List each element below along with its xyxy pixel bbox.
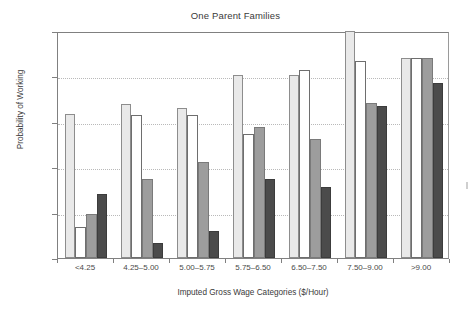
x-axis-label: Imputed Gross Wage Categories ($/Hour)	[57, 288, 449, 297]
bar	[131, 115, 142, 258]
bar	[65, 114, 76, 258]
bar	[209, 231, 220, 258]
bar	[299, 70, 310, 258]
x-tick-mark	[281, 259, 282, 263]
bar	[187, 115, 198, 258]
bar	[75, 227, 86, 258]
bar	[310, 139, 321, 258]
bar	[142, 179, 153, 258]
x-tick-mark	[113, 259, 114, 263]
scan-artifact	[466, 182, 468, 189]
x-tick-mark	[337, 259, 338, 263]
x-tick-mark	[57, 259, 58, 263]
bar	[289, 75, 300, 258]
bar	[254, 127, 265, 258]
bar	[345, 31, 356, 258]
bar	[433, 83, 444, 258]
chart-figure: One Parent Families Probability of Worki…	[0, 0, 471, 312]
x-tick-label: <4.25	[75, 263, 95, 272]
bar	[321, 187, 332, 259]
bar	[86, 214, 97, 258]
x-tick-label: 6.50–7.50	[291, 263, 327, 272]
gridline	[58, 124, 448, 125]
x-tick-mark	[169, 259, 170, 263]
y-tick-mark	[52, 214, 57, 215]
y-tick-mark	[52, 32, 57, 33]
bar	[243, 134, 254, 258]
bar	[366, 103, 377, 258]
bar	[198, 162, 209, 258]
y-tick-mark	[52, 168, 57, 169]
x-tick-label: 5.75–6.50	[235, 263, 271, 272]
x-tick-label: 4.25–5.00	[123, 263, 159, 272]
x-tick-mark	[449, 259, 450, 263]
bar	[177, 108, 188, 258]
x-tick-mark	[225, 259, 226, 263]
x-tick-mark	[393, 259, 394, 263]
bar	[401, 58, 412, 258]
bar	[153, 243, 164, 258]
plot-area	[57, 32, 449, 259]
bar	[233, 75, 244, 258]
bar	[355, 61, 366, 258]
bar	[121, 104, 132, 258]
y-tick-mark	[52, 77, 57, 78]
bar	[265, 179, 276, 258]
y-tick-mark	[52, 123, 57, 124]
y-axis-label: Probability of Working	[16, 45, 25, 175]
bar	[422, 58, 433, 258]
x-tick-label: >9.00	[411, 263, 431, 272]
bar	[377, 106, 388, 258]
bar	[97, 194, 108, 258]
x-tick-label: 5.00–5.75	[179, 263, 215, 272]
gridline	[58, 78, 448, 79]
chart-title: One Parent Families	[0, 10, 471, 21]
x-tick-label: 7.50–9.00	[347, 263, 383, 272]
bar	[411, 58, 422, 258]
